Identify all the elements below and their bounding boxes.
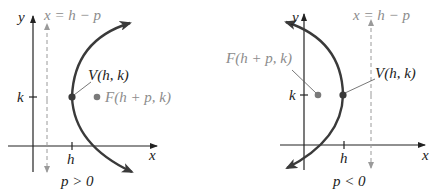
parabola-curve <box>286 22 343 95</box>
vertex-point <box>339 91 346 98</box>
k-tick-label: k <box>289 88 296 103</box>
caption: p < 0 <box>333 174 366 189</box>
focus-label: F(h + p, k) <box>105 90 171 105</box>
vertex-point <box>68 93 75 100</box>
y-axis-label: y <box>292 10 299 25</box>
parabola-diagrams <box>0 0 436 196</box>
x-axis-label: x <box>149 148 156 163</box>
directrix-label: x = h − p <box>353 8 410 23</box>
focus-point <box>94 94 101 101</box>
focus-label: F(h + p, k) <box>226 51 292 66</box>
focus-point <box>315 92 322 99</box>
caption: p > 0 <box>61 174 94 189</box>
parabola-curve-lower <box>72 97 132 172</box>
parabola-curve <box>72 23 130 97</box>
y-axis-label: y <box>18 10 25 25</box>
k-tick-label: k <box>17 90 24 105</box>
x-axis-label: x <box>422 148 429 163</box>
vertex-label: V(h, k) <box>375 66 416 81</box>
panel-p-negative <box>280 14 425 170</box>
vertex-label: V(h, k) <box>88 68 129 83</box>
vertex-leader <box>74 82 91 95</box>
h-tick-label: h <box>67 152 75 167</box>
directrix-label: x = h − p <box>44 8 101 23</box>
h-tick-label: h <box>340 151 348 166</box>
parabola-curve-lower <box>287 95 343 168</box>
